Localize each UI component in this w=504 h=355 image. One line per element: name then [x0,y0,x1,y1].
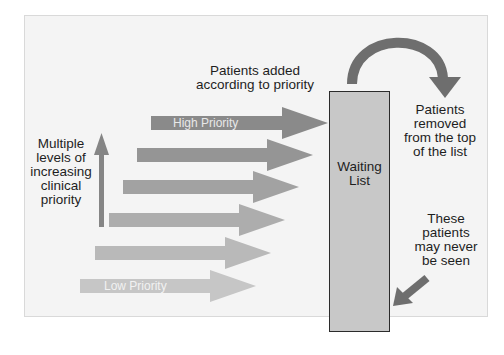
priority-arrow-5-icon [137,139,313,171]
removed-line-4: of the list [398,145,482,159]
patients-removed-label: Patients removed from the top of the lis… [398,103,482,159]
removed-line-3: from the top [398,131,482,145]
increasing-priority-label: Multiple levels of increasing clinical p… [26,137,96,207]
waiting-list-line-2: List [330,174,389,188]
left-label-line-3: increasing [26,165,96,179]
waiting-list-box: Waiting List [329,91,390,332]
waiting-list-line-1: Waiting [330,160,389,174]
removed-line-1: Patients [398,103,482,117]
curved-removal-arrow-icon [352,43,461,98]
low-priority-label: Low Priority [104,280,167,292]
left-label-line-4: clinical [26,179,96,193]
never-seen-label: These patients may never be seen [404,212,488,268]
waiting-list-label: Waiting List [330,160,389,188]
priority-arrow-2-icon [95,237,271,269]
patients-added-line-1: Patients added [180,64,330,78]
left-label-line-1: Multiple [26,137,96,151]
high-priority-label: High Priority [173,117,238,129]
left-label-line-5: priority [26,193,96,207]
never-seen-line-4: be seen [404,254,488,268]
never-seen-line-2: patients [404,226,488,240]
left-label-line-2: levels of [26,151,96,165]
priority-arrow-3-icon [109,204,285,236]
never-seen-line-3: may never [404,240,488,254]
never-seen-line-1: These [404,212,488,226]
patients-added-label: Patients added according to priority [180,64,330,92]
increasing-priority-arrow-icon [94,133,109,227]
removed-line-2: removed [398,117,482,131]
diagonal-never-seen-arrow-icon [393,278,427,306]
priority-arrow-4-icon [123,171,299,203]
patients-added-line-2: according to priority [180,78,330,92]
